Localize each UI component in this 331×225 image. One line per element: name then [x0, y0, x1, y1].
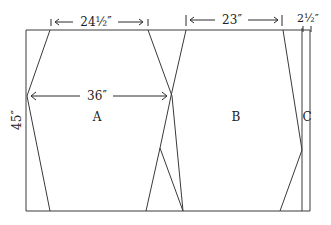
cutting-layout-diagram: 24½″ 23″ 2½″ 36″ 45″ A B C — [0, 0, 331, 225]
piece-label-c: C — [302, 110, 311, 124]
dimension-label-23: 23″ — [222, 13, 242, 27]
dimension-label-24-half: 24½″ — [80, 15, 112, 29]
dimension-label-2-half: 2½″ — [297, 12, 319, 25]
piece-label-a: A — [92, 110, 102, 124]
dimension-label-36: 36″ — [87, 89, 107, 103]
piece-a-outline — [27, 30, 183, 211]
fabric-outline — [26, 30, 310, 211]
piece-label-b: B — [232, 110, 241, 124]
piece-b-outline — [146, 30, 302, 211]
dimension-label-45: 45″ — [10, 110, 24, 130]
